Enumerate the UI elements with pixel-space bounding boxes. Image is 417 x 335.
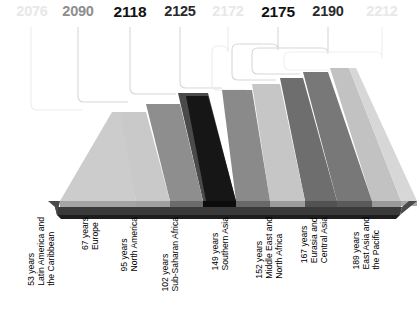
region-value-southern-asia: 149 years bbox=[210, 217, 220, 271]
region-value-north-america: 95 years bbox=[119, 217, 129, 271]
region-label-middle-east-north-africa: 152 years Middle East and North Africa bbox=[254, 217, 285, 279]
region-label-eurasia-central-asia: 167 years Eurasia and Central Asia bbox=[299, 217, 330, 263]
leader-line-2175 bbox=[232, 27, 278, 80]
region-labels: 53 years Latin America and the Caribbean… bbox=[0, 215, 417, 335]
region-value-sub-saharan-africa: 102 years bbox=[160, 217, 170, 292]
region-name-latin-america: Latin America and the Caribbean bbox=[36, 217, 56, 286]
infographic-canvas: 2076 2090 2118 2125 2172 2175 2190 2212 bbox=[0, 0, 417, 335]
region-value-latin-america: 53 years bbox=[26, 217, 36, 286]
region-name-east-asia-pacific: East Asia and the Pacific bbox=[361, 217, 381, 270]
region-label-north-america: 95 years North America bbox=[119, 217, 139, 271]
leader-line-2190 bbox=[252, 27, 328, 74]
bar-front-cap bbox=[236, 201, 270, 208]
bar-front-cap bbox=[170, 201, 203, 208]
bar-front-cap bbox=[60, 201, 136, 207]
region-value-eurasia-central-asia: 167 years bbox=[299, 217, 309, 263]
bar-front-cap bbox=[337, 201, 372, 208]
region-label-latin-america: 53 years Latin America and the Caribbean bbox=[26, 217, 57, 286]
region-name-north-america: North America bbox=[129, 217, 139, 271]
region-name-eurasia-central-asia: Eurasia and Central Asia bbox=[309, 217, 329, 263]
bar-front-cap bbox=[203, 201, 236, 208]
bar-front-cap bbox=[136, 201, 170, 208]
region-value-east-asia-pacific: 189 years bbox=[351, 217, 361, 270]
region-label-east-asia-pacific: 189 years East Asia and the Pacific bbox=[351, 217, 382, 270]
region-name-europe: Europe bbox=[90, 217, 100, 250]
region-name-southern-asia: Southern Asia bbox=[220, 217, 230, 271]
leader-line-2125 bbox=[180, 27, 222, 88]
region-label-sub-saharan-africa: 102 years Sub-Saharan Africa bbox=[160, 217, 180, 292]
region-label-europe: 67 years Europe bbox=[80, 217, 100, 250]
bar-front-cap bbox=[305, 201, 337, 208]
region-value-middle-east-north-africa: 152 years bbox=[254, 217, 264, 279]
bar-front-cap bbox=[372, 201, 401, 207]
region-name-middle-east-north-africa: Middle East and North Africa bbox=[264, 217, 284, 279]
leader-line-2118 bbox=[130, 27, 176, 94]
platform-top bbox=[55, 207, 402, 215]
region-label-southern-asia: 149 years Southern Asia bbox=[210, 217, 230, 271]
leader-line-2090 bbox=[78, 27, 128, 102]
leader-line-2076 bbox=[31, 27, 82, 110]
region-value-europe: 67 years bbox=[80, 217, 90, 250]
bar-front-cap bbox=[270, 201, 305, 208]
region-name-sub-saharan-africa: Sub-Saharan Africa bbox=[170, 217, 180, 292]
